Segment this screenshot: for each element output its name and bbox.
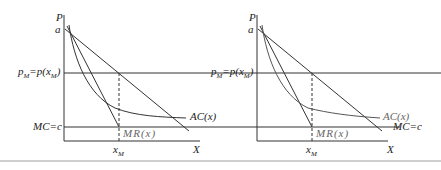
left-mr-curve xyxy=(67,26,119,127)
left-x-axis-label: X xyxy=(193,144,200,155)
left-intercept-label: a xyxy=(55,24,61,35)
monopoly-diagrams: P a pM=p(xM) MC=c AC(x) MR(x) xM X P a p… xyxy=(0,0,441,170)
right-xm-label: xM xyxy=(306,144,317,158)
price-equation: =p(x xyxy=(222,65,243,77)
right-ac-label: AC(x) xyxy=(383,111,409,122)
left-mc-label: MC=c xyxy=(33,121,62,132)
right-mr-label: MR(x) xyxy=(316,128,349,139)
right-x-axis-label: X xyxy=(387,144,394,155)
right-intercept-label: a xyxy=(248,24,254,35)
xm-subscript: M xyxy=(118,150,124,158)
left-xm-label: xM xyxy=(113,144,124,158)
left-panel xyxy=(64,15,200,141)
bottom-divider xyxy=(0,160,441,162)
right-panel xyxy=(257,15,388,141)
left-price-label: pM=p(xM) xyxy=(18,66,60,80)
left-ac-curve xyxy=(69,25,186,118)
left-ac-label: AC(x) xyxy=(190,111,216,122)
left-y-axis-label: P xyxy=(56,12,63,23)
right-demand-curve xyxy=(258,29,382,131)
price-close: ) xyxy=(250,65,254,77)
price-close: ) xyxy=(57,65,61,77)
right-mr-curve xyxy=(260,26,312,127)
right-price-label: pM=p(xM) xyxy=(211,66,253,80)
left-demand-curve xyxy=(65,29,189,131)
price-equation: =p(x xyxy=(29,65,50,77)
right-y-axis-label: P xyxy=(249,12,256,23)
left-mr-label: MR(x) xyxy=(123,128,156,139)
xm-subscript: M xyxy=(311,150,317,158)
right-mc-label: MC=c xyxy=(393,121,422,132)
diagram-canvas xyxy=(0,0,441,170)
right-ac-curve xyxy=(262,25,380,118)
